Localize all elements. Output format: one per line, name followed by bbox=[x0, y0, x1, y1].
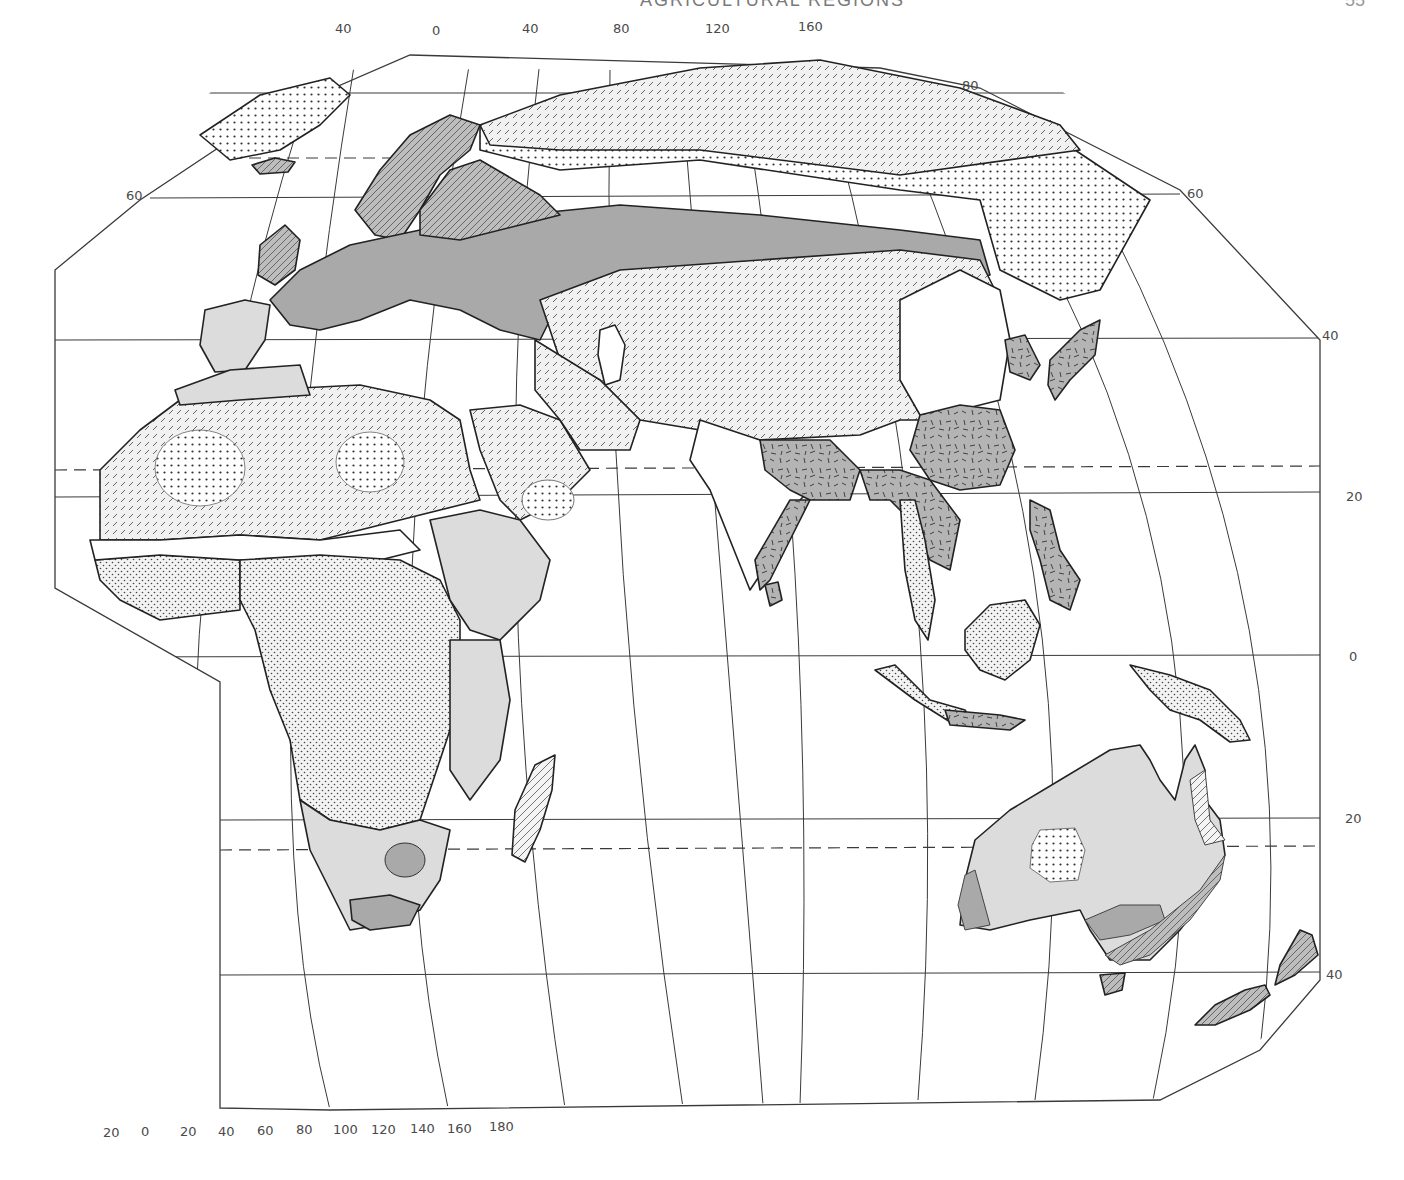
lon-label: 20 bbox=[103, 1125, 120, 1140]
region-philippines bbox=[1030, 500, 1080, 610]
lon-label: 20 bbox=[180, 1124, 197, 1139]
region-sri-lanka bbox=[765, 582, 782, 606]
region-korea bbox=[1005, 335, 1040, 380]
region-sahara-core-west bbox=[155, 430, 245, 506]
region-australia-desert-core bbox=[1030, 828, 1085, 882]
lat-label-right: 40 bbox=[1322, 328, 1339, 343]
agricultural-regions-map: 40 0 40 80 120 160 20 0 20 40 60 80 100 … bbox=[0, 0, 1404, 1180]
lat-label-right: 60 bbox=[1187, 186, 1204, 201]
region-new-zealand-south bbox=[1195, 985, 1270, 1025]
lon-label: 100 bbox=[333, 1122, 358, 1137]
region-madagascar bbox=[512, 755, 555, 862]
lat-label-right: 20 bbox=[1345, 811, 1362, 826]
lat-label-right: 80 bbox=[962, 78, 979, 93]
region-iberia bbox=[200, 300, 270, 372]
region-iceland bbox=[252, 158, 295, 174]
region-sahara-core-east bbox=[336, 432, 404, 492]
land-masses bbox=[90, 60, 1318, 1025]
region-tasmania bbox=[1100, 973, 1125, 995]
region-east-africa bbox=[450, 640, 510, 800]
lon-label: 180 bbox=[489, 1119, 514, 1134]
region-borneo bbox=[965, 600, 1040, 680]
lat-label-left: 60 bbox=[126, 188, 143, 203]
region-west-africa bbox=[95, 555, 240, 620]
lon-label: 80 bbox=[613, 21, 630, 36]
region-new-guinea bbox=[1130, 665, 1250, 742]
lon-label: 140 bbox=[410, 1121, 435, 1136]
lon-label: 40 bbox=[522, 21, 539, 36]
lon-label: 60 bbox=[257, 1123, 274, 1138]
region-rub-al-khali bbox=[522, 480, 574, 520]
lon-label: 80 bbox=[296, 1122, 313, 1137]
lat-label-right: 40 bbox=[1326, 967, 1343, 982]
lat-label-right: 0 bbox=[1349, 649, 1357, 664]
lon-label: 0 bbox=[141, 1124, 149, 1139]
region-greenland bbox=[200, 78, 350, 160]
lon-label: 160 bbox=[447, 1121, 472, 1136]
lon-label: 120 bbox=[705, 21, 730, 36]
lon-label: 160 bbox=[798, 19, 823, 34]
region-south-china-rice bbox=[910, 405, 1015, 490]
lon-label: 0 bbox=[432, 23, 440, 38]
lon-label: 120 bbox=[371, 1122, 396, 1137]
lon-label: 40 bbox=[218, 1124, 235, 1139]
region-java bbox=[945, 710, 1025, 730]
region-highveld bbox=[385, 843, 425, 877]
lon-label: 40 bbox=[335, 21, 352, 36]
bottom-longitude-labels: 20 0 20 40 60 80 100 120 140 160 180 bbox=[103, 1119, 514, 1140]
region-central-africa bbox=[240, 555, 460, 830]
lat-label-right: 20 bbox=[1346, 489, 1363, 504]
region-new-zealand-north bbox=[1275, 930, 1318, 985]
top-longitude-labels: 40 0 40 80 120 160 bbox=[335, 19, 823, 38]
region-japan bbox=[1048, 320, 1100, 400]
region-north-china bbox=[900, 270, 1010, 415]
